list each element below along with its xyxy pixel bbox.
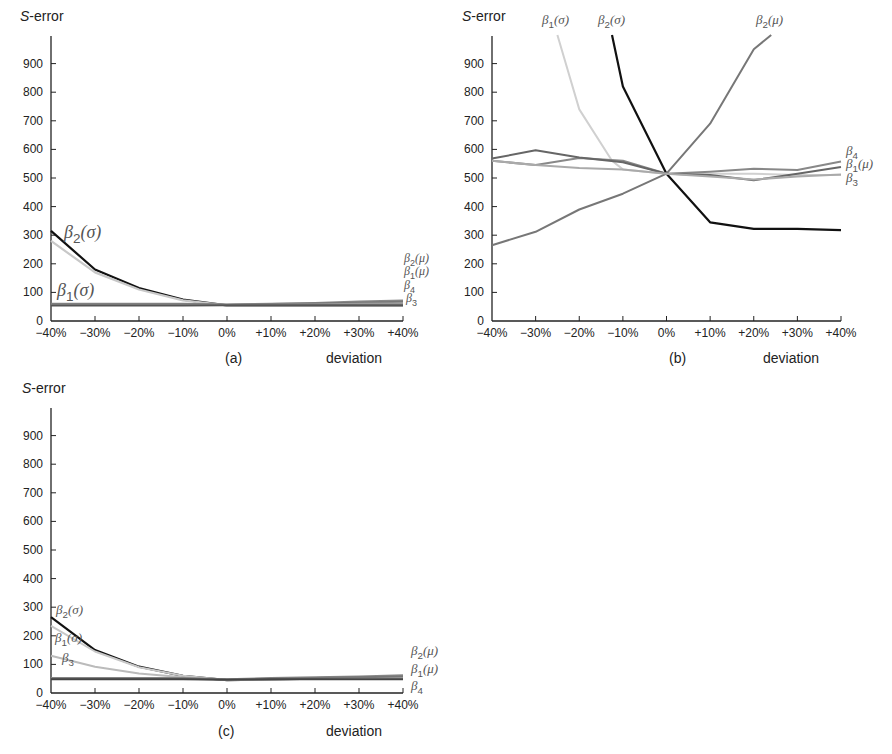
y-tick-label: 900 [23,429,43,443]
series-label: β1(σ) [541,12,569,30]
figure: S-error0100200300400500600700800900−40%−… [0,0,892,754]
y-tick-label: 500 [464,171,484,185]
series-line [557,35,841,175]
y-tick-label: 300 [23,228,43,242]
y-tick-label: 400 [23,200,43,214]
y-tick-label: 400 [23,572,43,586]
x-tick-label: −20% [564,326,595,340]
x-tick-label: 0% [658,326,676,340]
series-label: β1(σ) [54,630,82,648]
x-tick-label: +40% [825,326,856,340]
x-tick-label: +10% [695,326,726,340]
series-label: β3 [405,291,417,308]
x-tick-label: −40% [476,326,507,340]
x-tick-label: −30% [79,326,110,340]
y-tick-label: 300 [23,600,43,614]
series-label: β2(σ) [55,602,83,620]
y-axis-title: S-error [20,8,64,24]
y-tick-label: 900 [464,57,484,71]
y-tick-label: 700 [464,114,484,128]
x-tick-label: 0% [218,326,236,340]
x-tick-label: +20% [299,326,330,340]
panel-label: (a) [225,350,242,366]
y-tick-label: 400 [464,200,484,214]
series-label: β1(μ) [410,661,438,679]
series-line [612,35,841,230]
x-tick-label: −40% [35,326,66,340]
x-tick-label: +10% [255,698,286,712]
series-label: β2(σ) [63,222,101,246]
y-tick-label: 500 [23,171,43,185]
y-tick-label: 800 [464,85,484,99]
series-label: β4 [410,678,423,696]
x-tick-label: −30% [520,326,551,340]
y-tick-label: 600 [23,514,43,528]
y-tick-label: 600 [464,142,484,156]
x-axis-title: deviation [326,723,382,739]
y-tick-label: 700 [23,114,43,128]
x-axis-title: deviation [326,350,382,366]
x-tick-label: +30% [782,326,813,340]
x-axis-title: deviation [763,350,819,366]
x-tick-label: −20% [123,326,154,340]
x-tick-label: +10% [255,326,286,340]
y-tick-label: 200 [23,629,43,643]
y-tick-label: 600 [23,142,43,156]
series-label: β2(σ) [597,12,625,30]
y-tick-label: 700 [23,486,43,500]
y-tick-label: 100 [23,285,43,299]
x-tick-label: +30% [343,326,374,340]
chart-c: S-error0100200300400500600700800900−40%−… [22,380,438,739]
x-tick-label: +20% [738,326,769,340]
y-tick-label: 800 [23,457,43,471]
x-tick-label: −40% [35,698,66,712]
x-tick-label: 0% [218,698,236,712]
x-tick-label: −30% [79,698,110,712]
x-tick-label: −10% [607,326,638,340]
panel-label: (c) [218,723,234,739]
series-label: β2(μ) [410,643,438,661]
y-tick-label: 300 [464,228,484,242]
x-tick-label: +40% [387,326,418,340]
y-tick-label: 100 [23,657,43,671]
x-tick-label: +30% [343,698,374,712]
y-axis-title: S-error [462,8,506,24]
series-label: β3 [61,650,74,668]
series-line [51,679,403,680]
series-label: β1(σ) [56,280,94,304]
x-tick-label: −10% [167,698,198,712]
chart-b: S-error0100200300400500600700800900−40%−… [462,8,873,366]
y-tick-label: 800 [23,85,43,99]
series-line [51,617,403,680]
x-tick-label: +40% [387,698,418,712]
y-tick-label: 200 [464,257,484,271]
y-tick-label: 900 [23,57,43,71]
series-line [492,35,771,245]
series-line [51,231,403,305]
chart-a: S-error0100200300400500600700800900−40%−… [20,8,429,366]
y-axis-title: S-error [22,380,66,396]
y-tick-label: 100 [464,285,484,299]
y-tick-label: 200 [23,257,43,271]
x-tick-label: −20% [123,698,154,712]
x-tick-label: +20% [299,698,330,712]
y-tick-label: 500 [23,543,43,557]
x-tick-label: −10% [167,326,198,340]
panel-label: (b) [669,350,686,366]
series-label: β2(μ) [755,12,783,30]
